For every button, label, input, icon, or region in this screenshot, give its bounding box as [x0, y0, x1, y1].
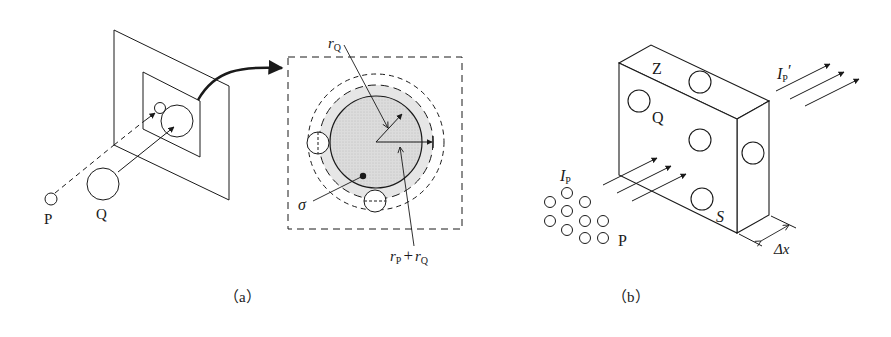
particle-q [87, 168, 119, 200]
dx-extension-2 [771, 216, 796, 228]
label-ip: IP [559, 167, 571, 186]
target-plane-outer [114, 30, 229, 200]
dx-dimension-arrow [761, 225, 789, 241]
projectile-cluster [545, 188, 609, 244]
label-dx: Δx [773, 241, 790, 257]
caption-a: （a） [224, 289, 261, 305]
zoom-arrow [198, 68, 282, 100]
particle-p [45, 193, 57, 205]
atom-q [628, 90, 650, 112]
atom-side [742, 142, 764, 164]
label-ip-prime: IP′ [776, 62, 791, 84]
label-rq: rQ [328, 35, 342, 53]
dx-extension-1 [739, 234, 762, 246]
slab-side-face [737, 101, 769, 233]
projected-q-circle [161, 105, 193, 137]
label-rp-plus-rq: rP+rQ [390, 246, 429, 266]
p-trajectory-arrow [143, 113, 155, 122]
label-z: Z [652, 60, 662, 77]
label-p-b: P [618, 232, 627, 249]
figure-canvas: P Q rQ σ rP+rQ （a） [0, 0, 891, 337]
caption-b: （b） [612, 289, 650, 305]
label-q-b: Q [652, 109, 664, 126]
sigma-point [360, 173, 366, 179]
panel-b: Z Q S IP IP′ P [545, 45, 860, 305]
transmitted-beam-3 [805, 79, 859, 106]
label-q: Q [96, 206, 107, 222]
transmitted-beam-2 [790, 72, 844, 99]
atom-top [689, 71, 711, 93]
panel-a: P Q rQ σ rP+rQ （a） [44, 30, 462, 305]
p-trajectory-dashed-inner [114, 122, 143, 145]
q-trajectory [118, 127, 174, 172]
label-p: P [44, 211, 52, 227]
label-s: S [716, 208, 724, 225]
atom-center [689, 129, 711, 151]
atom-s [691, 188, 713, 210]
label-sigma: σ [298, 196, 307, 213]
